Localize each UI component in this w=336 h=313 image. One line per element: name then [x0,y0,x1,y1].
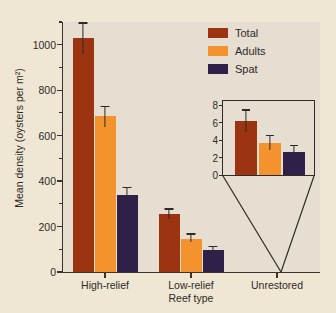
error-bar-cap-top [123,187,132,188]
inset-y-tick [219,157,223,158]
bar-total-low-relief [159,214,180,272]
inset-y-tick-label: 2 [212,153,218,162]
y-tick-label: 1000 [4,40,56,50]
y-tick-label: 600 [4,131,56,141]
legend-item-spat: Spat [208,62,266,76]
legend-swatch-total [208,28,228,38]
legend-label-adults: Adults [235,46,266,57]
inset-plot-area: 02468 [223,101,314,175]
error-bar [73,22,94,53]
inset-y-tick [219,175,223,176]
inset-error-bar [259,135,281,150]
legend-item-adults: Adults [208,44,266,58]
y-tick-label: 800 [4,85,56,95]
error-bar-cap-top [187,233,196,234]
error-bar-stem [126,187,127,203]
x-tick [276,273,277,278]
inset-error-bar-stem [293,145,294,158]
error-bar-stem [190,233,191,242]
y-tick-label: 400 [4,176,56,186]
error-bar [159,208,180,218]
inset-y-tick [219,122,223,123]
inset-error-bar [283,145,305,158]
inset-error-bar-stem [269,135,270,150]
error-bar [203,246,224,253]
legend-swatch-spat [208,64,228,74]
legend-item-total: Total [208,26,266,40]
error-bar-cap-top [79,22,88,23]
x-tick [104,273,105,278]
error-bar-stem [104,106,105,126]
bar-spat-high-relief [117,195,138,272]
bar-adults-high-relief [95,116,116,272]
error-bar [181,233,202,242]
inset-error-bar-cap-top [290,145,298,146]
inset-error-bar [235,109,257,132]
inset-y-tick-label: 0 [212,171,218,180]
error-bar [95,106,116,126]
error-bar-cap-top [165,208,174,209]
x-tick [190,273,191,278]
bar-spat-low-relief [203,250,224,272]
y-axis-title: Mean density (oysters per m²) [13,33,25,243]
x-axis-title: Reef type [62,292,320,304]
inset-bars-layer [231,105,308,175]
x-tick-label: Low-relief [168,279,214,291]
y-tick-label: 200 [4,222,56,232]
inset-error-bar-cap-top [242,109,250,110]
x-tick-label: High-relief [81,279,129,291]
inset-y-tick-label: 6 [212,118,218,127]
figure-panel: 02004006008001000 High-reliefLow-reliefU… [0,0,336,313]
bar-total-high-relief [73,38,94,272]
legend: Total Adults Spat [208,26,266,80]
legend-swatch-adults [208,46,228,56]
inset-error-bar-cap-top [266,135,274,136]
inset-y-tick [219,140,223,141]
error-bar-cap-top [101,106,110,107]
legend-label-total: Total [235,28,258,39]
error-bar-stem [82,22,83,53]
error-bar [117,187,138,203]
y-tick-label: 0 [4,267,56,277]
bar-adults-low-relief [181,239,202,272]
x-tick-label: Unrestored [251,279,303,291]
error-bar-stem [168,208,169,218]
legend-label-spat: Spat [235,64,258,75]
inset-y-tick-label: 4 [212,136,218,145]
y-tick-layer: 02004006008001000 [0,0,56,313]
inset-y-tick [219,105,223,106]
error-bar-cap-top [209,246,218,247]
inset-y-tick-label: 8 [212,101,218,110]
inset-chart: 02468 [222,100,315,176]
inset-error-bar-stem [245,109,246,132]
